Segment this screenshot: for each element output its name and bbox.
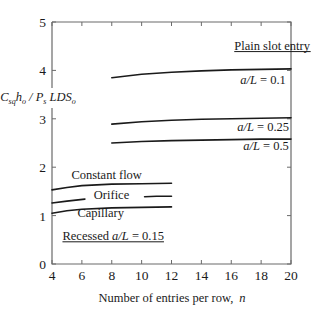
svg-text:Csqho / Ps LDSo: Csqho / Ps LDSo <box>0 90 76 106</box>
x-tick-label: 20 <box>284 268 298 283</box>
x-tick-label: 18 <box>254 268 268 283</box>
y-tick-label: 5 <box>39 15 46 30</box>
annotation-label: a/L = 0.1 <box>240 73 286 87</box>
annotation-label: Plain slot entry <box>234 39 310 53</box>
y-tick-label: 4 <box>39 63 46 78</box>
x-tick-label: 6 <box>79 268 86 283</box>
y-tick-label: 1 <box>39 209 46 224</box>
annotation-label: Constant flow <box>71 168 141 182</box>
annotation-label: a/L = 0.5 <box>243 139 289 153</box>
series-orifice-line <box>52 199 85 203</box>
chart: 468101214161820012345 Plain slot entrya/… <box>0 0 311 316</box>
annotation-label: a/L = 0.25 <box>237 120 289 134</box>
annotation-label: Capillary <box>77 206 124 220</box>
x-tick-label: 10 <box>135 268 149 283</box>
y-tick-label: 2 <box>39 160 46 175</box>
x-tick-label: 16 <box>225 268 239 283</box>
x-tick-label: 8 <box>108 268 115 283</box>
x-axis-label: Number of entries per row,n <box>98 291 245 305</box>
y-axis-label: Csqho / Ps LDSo <box>0 90 76 106</box>
x-tick-label: 14 <box>195 268 209 283</box>
annotation-label: Recessed a/L = 0.15 <box>62 229 164 243</box>
x-tick-label: 4 <box>49 268 56 283</box>
annotation-label: Orifice <box>94 188 130 202</box>
y-tick-label: 0 <box>39 257 46 272</box>
series-orifice-line <box>145 196 172 197</box>
svg-text:Number of entries per row,n: Number of entries per row,n <box>98 291 245 305</box>
x-tick-label: 12 <box>165 268 179 283</box>
y-tick-label: 3 <box>39 112 46 127</box>
